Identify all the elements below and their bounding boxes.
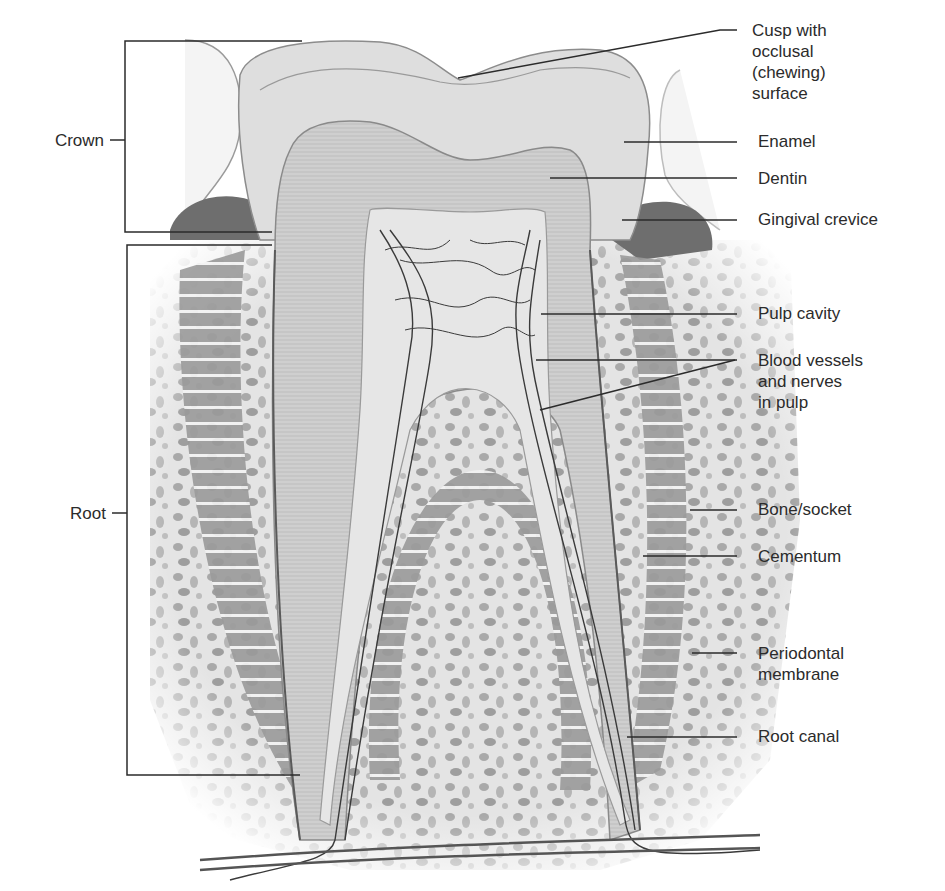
- label-root-canal: Root canal: [758, 726, 839, 747]
- label-dentin: Dentin: [758, 168, 807, 189]
- label-periodontal-membrane: Periodontal membrane: [758, 643, 844, 685]
- label-enamel: Enamel: [758, 131, 816, 152]
- label-gingival-crevice: Gingival crevice: [758, 209, 878, 230]
- label-pulp-cavity: Pulp cavity: [758, 303, 840, 324]
- label-cusp-occlusal-surface: Cusp with occlusal (chewing) surface: [752, 20, 827, 104]
- label-blood-vessels-nerves: Blood vessels and nerves in pulp: [758, 350, 863, 413]
- label-root: Root: [56, 503, 106, 524]
- label-bone-socket: Bone/socket: [758, 499, 852, 520]
- label-crown: Crown: [44, 130, 104, 151]
- label-cementum: Cementum: [758, 546, 841, 567]
